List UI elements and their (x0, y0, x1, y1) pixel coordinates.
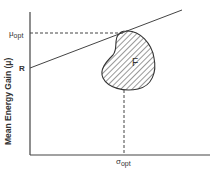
sigma-opt-label: σopt (116, 157, 131, 168)
feasible-region (102, 31, 155, 90)
region-label: F (132, 57, 138, 68)
mu-opt-label: μopt (9, 29, 23, 40)
tangent-line (30, 10, 182, 68)
y-axis-label: Mean Energy Gain (μ) (3, 57, 13, 145)
diagram-canvas: F μopt R σopt Mean Energy Gain (μ) (0, 0, 210, 173)
r-label: R (19, 64, 25, 73)
